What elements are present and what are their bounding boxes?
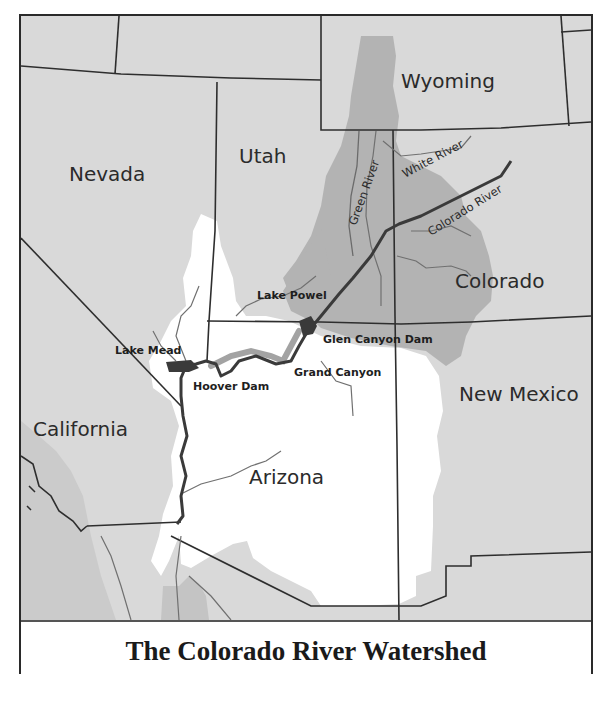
feature-label-glen-canyon-dam: Glen Canyon Dam xyxy=(323,333,433,346)
feature-label-lake-powell: Lake Powel xyxy=(257,289,327,302)
state-label-utah: Utah xyxy=(239,144,286,168)
state-label-new-mexico: New Mexico xyxy=(459,382,579,406)
state-label-california: California xyxy=(33,417,128,441)
watershed-map: Nevada Utah Wyoming Colorado California … xyxy=(21,16,591,620)
map-title: The Colorado River Watershed xyxy=(125,636,486,667)
feature-label-lake-mead: Lake Mead xyxy=(115,344,181,357)
state-label-wyoming: Wyoming xyxy=(401,69,495,93)
state-label-colorado: Colorado xyxy=(455,269,544,293)
caption-box: The Colorado River Watershed xyxy=(21,620,591,674)
state-label-arizona: Arizona xyxy=(249,465,324,489)
feature-label-hoover-dam: Hoover Dam xyxy=(193,380,269,393)
map-figure: Nevada Utah Wyoming Colorado California … xyxy=(19,14,593,674)
feature-label-grand-canyon: Grand Canyon xyxy=(294,366,381,379)
state-label-nevada: Nevada xyxy=(69,162,145,186)
